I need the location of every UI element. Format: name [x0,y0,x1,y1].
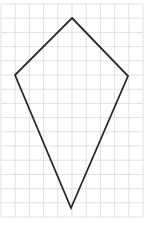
kite-diagram [0,0,145,225]
grid-lines [1,4,143,217]
